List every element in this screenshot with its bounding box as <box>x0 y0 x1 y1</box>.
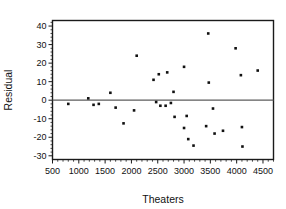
data-point <box>114 106 117 109</box>
data-point <box>159 104 162 107</box>
data-point <box>222 129 225 132</box>
x-tick-label: 3500 <box>200 166 220 176</box>
y-tick-label: 20 <box>36 58 46 68</box>
data-point <box>192 144 195 147</box>
x-tick-label: 500 <box>45 166 60 176</box>
x-tick-label: 2000 <box>121 166 141 176</box>
data-point <box>240 74 243 77</box>
plot-frame <box>53 21 274 160</box>
x-tick-label: 4000 <box>227 166 247 176</box>
data-point <box>207 81 210 84</box>
y-tick-label: -20 <box>33 132 46 142</box>
data-point <box>234 47 237 50</box>
data-point <box>256 69 259 72</box>
y-tick-label: 30 <box>36 40 46 50</box>
data-point <box>183 66 186 69</box>
data-point <box>213 132 216 135</box>
data-point <box>187 138 190 141</box>
data-point <box>109 91 112 94</box>
y-tick-label: 10 <box>36 77 46 87</box>
data-point <box>98 103 101 106</box>
data-point <box>241 145 244 148</box>
x-tick-label: 1000 <box>69 166 89 176</box>
data-point <box>67 103 70 106</box>
scatter-plot-canvas: -30-20-10010203040 500100015002000250030… <box>0 0 286 209</box>
data-point <box>166 71 169 74</box>
data-point <box>92 104 95 107</box>
data-point <box>170 102 173 105</box>
y-tick-label: 40 <box>36 21 46 31</box>
x-tick-label: 1500 <box>95 166 115 176</box>
data-point <box>155 101 158 104</box>
data-point <box>164 104 167 107</box>
data-point <box>183 127 186 130</box>
data-points <box>67 32 259 148</box>
x-axis-tick-labels: 50010001500200025003000350040004500 <box>45 166 273 176</box>
x-tick-label: 3000 <box>174 166 194 176</box>
data-point <box>212 107 215 110</box>
x-tick-label: 4500 <box>253 166 273 176</box>
data-point <box>205 125 208 128</box>
data-point <box>87 97 90 100</box>
y-tick-label: -30 <box>33 151 46 161</box>
data-point <box>173 116 176 119</box>
data-point <box>122 122 125 125</box>
data-point <box>157 73 160 76</box>
y-tick-label: -10 <box>33 114 46 124</box>
y-axis-title: Residual <box>2 70 14 111</box>
y-tick-label: 0 <box>41 95 46 105</box>
data-point <box>241 126 244 129</box>
plot-area-border <box>53 21 274 160</box>
x-tick-label: 2500 <box>148 166 168 176</box>
data-point <box>135 54 138 57</box>
y-axis-tick-labels: -30-20-10010203040 <box>33 21 46 161</box>
data-point <box>207 32 210 35</box>
data-point <box>152 79 155 82</box>
data-point <box>133 109 136 112</box>
data-point <box>185 115 188 118</box>
x-axis-title: Theaters <box>142 193 183 205</box>
residual-scatter-figure: -30-20-10010203040 500100015002000250030… <box>0 0 286 209</box>
data-point <box>172 91 175 94</box>
